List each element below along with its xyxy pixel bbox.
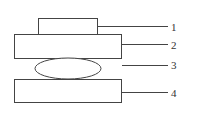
label-4: 4 <box>171 87 177 99</box>
label-3: 3 <box>171 59 177 71</box>
component-2-plate <box>15 35 122 59</box>
schematic-diagram: 1 2 3 4 <box>0 0 199 113</box>
component-4-plate <box>15 80 122 103</box>
label-1: 1 <box>171 21 177 33</box>
component-3-ellipse <box>35 58 101 79</box>
label-2: 2 <box>171 39 177 51</box>
component-1-block <box>39 19 98 35</box>
